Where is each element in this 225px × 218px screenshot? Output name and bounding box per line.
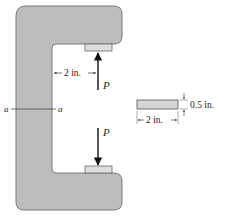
width-label: 2 in. — [146, 115, 163, 125]
c-clamp-diagram: P P 2 in. a a 0.5 in. 2 in. — [0, 0, 225, 218]
thickness-label: 0.5 in. — [190, 100, 214, 110]
section-label-right: a — [58, 104, 63, 114]
top-bearing-plate — [85, 44, 112, 51]
section-label-left: a — [4, 104, 9, 114]
c-frame — [16, 6, 122, 210]
bottom-bearing-plate — [85, 166, 112, 173]
load-label-bottom: P — [102, 126, 110, 138]
cross-section — [137, 100, 178, 109]
load-label-top: P — [102, 79, 110, 91]
throat-dimension-label: 2 in. — [64, 68, 81, 78]
